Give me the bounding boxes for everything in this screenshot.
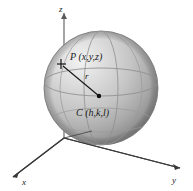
sphere-diagram: P (x,y,z) C (h,k,l) r z x y (0, 0, 193, 191)
point-c-label: C (h,k,l) (76, 107, 110, 119)
sphere-diagram-canvas: P (x,y,z) C (h,k,l) r z x y (0, 0, 193, 191)
sphere-body (44, 31, 158, 145)
y-axis-label: y (171, 175, 176, 185)
sphere-rim-shadow (44, 31, 158, 145)
y-axis-front (64, 138, 180, 168)
point-p-label: P (x,y,z) (69, 51, 103, 63)
z-axis-label: z (58, 4, 63, 14)
x-axis-front (13, 138, 64, 177)
x-axis-arrowhead (13, 172, 19, 178)
radius-label: r (85, 71, 89, 81)
y-axis-arrowhead (173, 164, 180, 170)
point-c-dot (97, 94, 101, 98)
x-axis-label: x (21, 177, 26, 187)
